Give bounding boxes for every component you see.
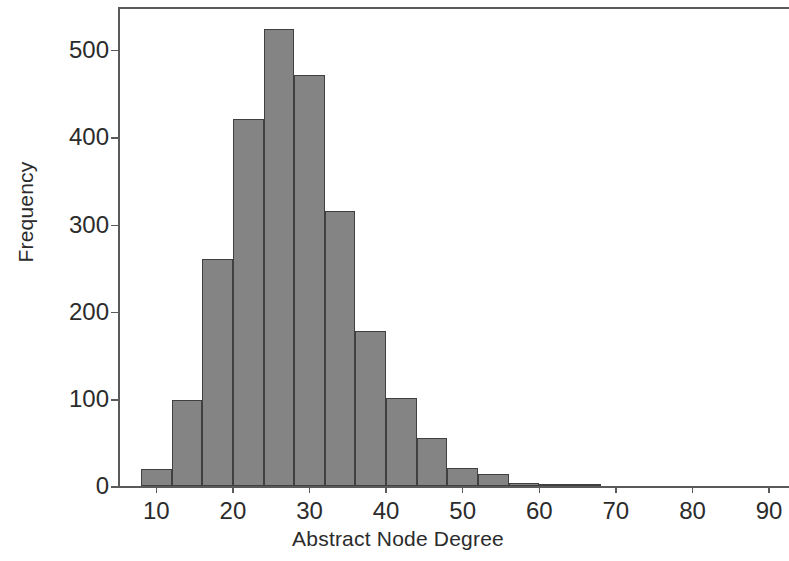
histogram-bar [570,484,601,486]
y-axis-title: Frequency [14,112,38,312]
histogram-bar [264,29,295,486]
y-tick-label: 200 [69,298,109,326]
plot-area: 0100200300400500 102030405060708090 [118,7,789,488]
histogram-bar [141,469,172,486]
histogram-bar [233,119,264,487]
x-tick-label: 30 [296,497,323,525]
x-tick-mark [615,486,617,493]
y-tick-label: 400 [69,123,109,151]
y-tick-mark [111,225,118,227]
histogram-bar [417,438,448,486]
x-tick-label: 80 [679,497,706,525]
x-tick-mark [232,486,234,493]
histogram-bar [355,331,386,486]
y-tick-mark [111,486,118,488]
x-tick-mark [156,486,158,493]
y-tick-mark [111,50,118,52]
x-tick-mark [539,486,541,493]
y-tick-label: 0 [96,472,109,500]
x-tick-mark [309,486,311,493]
x-tick-mark [462,486,464,493]
y-tick-mark [111,312,118,314]
x-tick-label: 70 [603,497,630,525]
x-tick-label: 50 [449,497,476,525]
x-tick-label: 40 [373,497,400,525]
y-tick-label: 100 [69,385,109,413]
histogram-bar [447,468,478,486]
histogram-bar [478,474,509,486]
x-tick-label: 60 [526,497,553,525]
top-frame-line [118,7,789,9]
x-tick-label: 10 [143,497,170,525]
histogram-bar [509,483,540,486]
x-tick-label: 20 [220,497,247,525]
y-tick-mark [111,137,118,139]
x-tick-mark [768,486,770,493]
y-axis-spine [118,7,120,488]
histogram-bar [539,484,570,487]
histogram-figure: Frequency Abstract Node Degree 010020030… [0,0,789,561]
y-tick-label: 500 [69,36,109,64]
histogram-bar [386,398,417,486]
histogram-bar [294,75,325,486]
histogram-bar [172,400,203,486]
x-tick-label: 90 [756,497,783,525]
x-axis-spine [118,486,789,488]
x-axis-title: Abstract Node Degree [118,527,678,551]
histogram-bar [325,211,356,486]
y-tick-mark [111,399,118,401]
x-tick-mark [385,486,387,493]
x-tick-mark [692,486,694,493]
histogram-bar [202,259,233,487]
y-tick-label: 300 [69,211,109,239]
